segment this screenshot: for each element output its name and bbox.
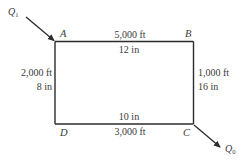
pipe-network-diagram: Q1 Q0 A B D C 5,000 ft 12 in 10 in 3,000… <box>0 0 250 165</box>
pipe-BC-diameter: 16 in <box>198 82 218 92</box>
outflow-label: Q0 <box>225 144 235 157</box>
outflow-arrow-icon <box>194 125 220 147</box>
inflow-label: Q1 <box>8 7 18 20</box>
node-label-D: D <box>60 128 68 138</box>
pipe-AD-length: 2,000 ft <box>21 68 52 78</box>
pipe-DC-diameter: 10 in <box>119 112 139 122</box>
outflow-subscript: 0 <box>232 148 235 155</box>
pipe-AB-length: 5,000 ft <box>114 30 145 40</box>
node-label-C: C <box>183 128 190 138</box>
node-label-A: A <box>60 29 66 39</box>
inflow-subscript: 1 <box>15 11 18 18</box>
pipe-AB-diameter: 12 in <box>119 45 139 55</box>
pipe-DC-length: 3,000 ft <box>114 127 145 137</box>
node-label-B: B <box>185 29 191 39</box>
pipe-AD-diameter: 8 in <box>37 82 52 92</box>
inflow-arrow-icon <box>26 17 54 41</box>
pipe-BC-length: 1,000 ft <box>198 68 229 78</box>
